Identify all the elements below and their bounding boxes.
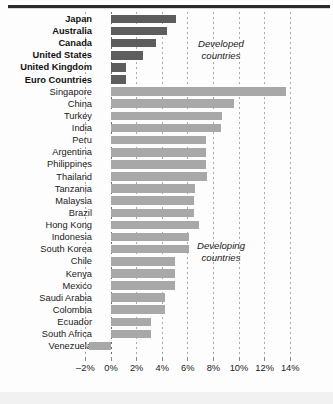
bar-row: Colombia [0, 304, 333, 316]
bar [111, 196, 194, 205]
bar [111, 269, 175, 278]
axis-tick-label: –2% [76, 363, 95, 373]
bar [111, 305, 165, 314]
axis-tick [85, 357, 86, 361]
bar [111, 75, 126, 84]
category-label: Kenya [66, 268, 92, 280]
bar [111, 160, 206, 169]
plot-area: JapanAustraliaCanadaUnited StatesUnited … [0, 12, 333, 357]
category-label: Chile [71, 255, 92, 267]
category-label: Philippines [47, 158, 92, 170]
axis-tick-label: 12% [255, 363, 274, 373]
axis-tick [162, 357, 163, 361]
category-label: South Korea [40, 243, 92, 255]
bar [111, 209, 194, 218]
bar [111, 318, 151, 327]
axis-tick [111, 357, 112, 361]
bar [111, 293, 165, 302]
category-label: Japan [65, 13, 92, 25]
axis-tick-label: 4% [155, 363, 168, 373]
bar [111, 124, 221, 133]
category-label: Malaysia [55, 195, 92, 207]
bar-row: Malaysia [0, 195, 333, 207]
category-label: Mexico [63, 280, 92, 292]
bar-rows: JapanAustraliaCanadaUnited StatesUnited … [0, 12, 333, 357]
category-label: Brazil [69, 207, 92, 219]
category-label: Thailand [56, 171, 92, 183]
category-label: South Africa [42, 328, 92, 340]
bar [111, 184, 195, 193]
category-label: Hong Kong [45, 219, 92, 231]
bar-row: Tanzania [0, 183, 333, 195]
category-label: United Kingdom [20, 61, 92, 73]
bar [111, 257, 175, 266]
bar-row: China [0, 98, 333, 110]
bar-row: Canada [0, 37, 333, 49]
category-label: Singapore [50, 86, 92, 98]
axis-tick [136, 357, 137, 361]
category-label: Peru [72, 134, 92, 146]
category-label: Tanzania [55, 183, 92, 195]
category-label: Euro Countries [25, 74, 92, 86]
bar-row: Mexico [0, 280, 333, 292]
header-rule [8, 5, 330, 8]
bar-row: Japan [0, 13, 333, 25]
bar [111, 330, 151, 339]
bar-row: Euro Countries [0, 74, 333, 86]
bar [111, 87, 286, 96]
bar [111, 15, 176, 24]
axis-tick-label: 14% [281, 363, 300, 373]
bar-row: Hong Kong [0, 219, 333, 231]
category-label: India [72, 122, 92, 134]
bar-row: Australia [0, 25, 333, 37]
axis-tick [187, 357, 188, 361]
category-label: China [68, 98, 92, 110]
category-label: Colombia [53, 304, 92, 316]
axis-tick [213, 357, 214, 361]
axis-tick [264, 357, 265, 361]
category-label: Ecuador [57, 316, 92, 328]
bar-row: Chile [0, 255, 333, 267]
axis-tick [290, 357, 291, 361]
bar [111, 172, 207, 181]
bar [111, 27, 167, 36]
bar-row: United States [0, 49, 333, 61]
bar-row: Philippines [0, 158, 333, 170]
bar-row: Singapore [0, 86, 333, 98]
bar-row: India [0, 122, 333, 134]
bar-row: Venezuela [0, 340, 333, 352]
bar-row: Kenya [0, 268, 333, 280]
category-label: Indonesia [52, 231, 92, 243]
axis-tick-label: 2% [130, 363, 143, 373]
category-label: Argentina [52, 146, 92, 158]
annotation-developed: Developed countries [178, 38, 264, 61]
bar-row: South Korea [0, 243, 333, 255]
bar [111, 221, 199, 230]
x-axis: –2%0%2%4%6%8%10%12%14% [0, 357, 333, 379]
bar [111, 281, 175, 290]
category-label: Turkey [64, 110, 92, 122]
bar-row: Peru [0, 134, 333, 146]
bar-row: Ecuador [0, 316, 333, 328]
bar-row: South Africa [0, 328, 333, 340]
bar [89, 342, 111, 351]
bar [111, 63, 126, 72]
category-label: Canada [58, 37, 92, 49]
bar-row: Brazil [0, 207, 333, 219]
bar [111, 148, 206, 157]
annotation-developing: Developing countries [178, 240, 264, 263]
bar-chart: JapanAustraliaCanadaUnited StatesUnited … [0, 0, 333, 404]
bar-row: Indonesia [0, 231, 333, 243]
bar [111, 112, 222, 121]
bar-row: United Kingdom [0, 61, 333, 73]
category-label: Venezuela [49, 340, 92, 352]
bar [111, 51, 143, 60]
bar-row: Argentina [0, 146, 333, 158]
bar-row: Thailand [0, 171, 333, 183]
axis-tick-label: 0% [104, 363, 117, 373]
category-label: Saudi Arabia [39, 292, 92, 304]
bar-row: Saudi Arabia [0, 292, 333, 304]
bar [111, 99, 234, 108]
bar [111, 39, 156, 48]
footer-band [0, 392, 333, 404]
